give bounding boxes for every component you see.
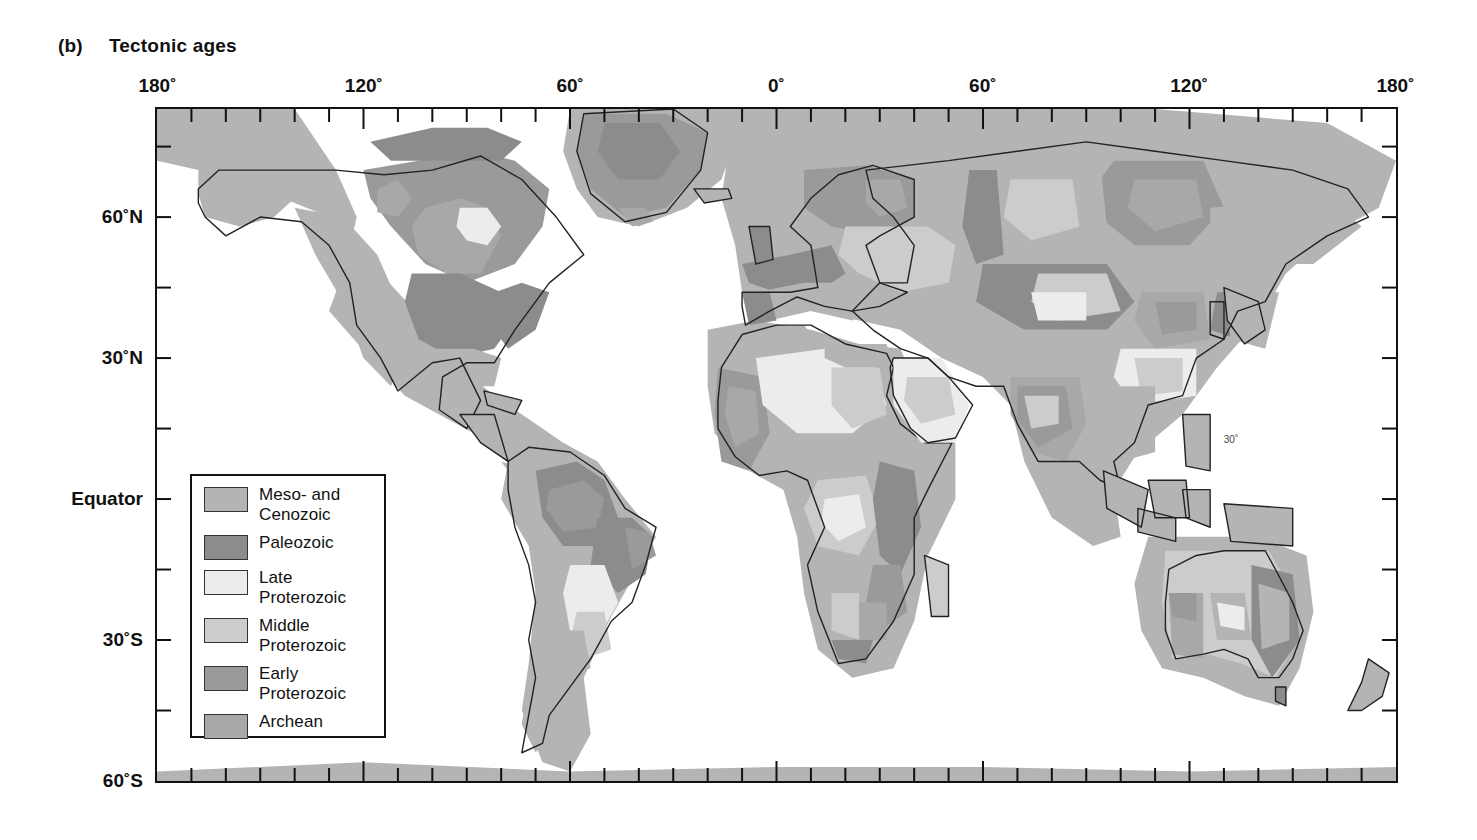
panel-letter: (b) [58, 35, 83, 56]
legend-item[interactable]: Early Proterozoic [204, 664, 376, 704]
map-region [1031, 292, 1086, 320]
lat-tick-label-0: 60˚N [102, 206, 143, 228]
legend-label-3: Middle Proterozoic [259, 616, 346, 656]
lon-tick-label-3: 0˚ [768, 75, 785, 97]
legend-item[interactable]: Paleozoic [204, 533, 376, 560]
lon-tick-label-6: 180˚ [1376, 75, 1414, 97]
map-region [1155, 302, 1196, 335]
map-region [198, 165, 294, 226]
map-region [370, 128, 521, 161]
lat-tick-label-3: 30˚S [103, 629, 143, 651]
legend-item[interactable]: Late Proterozoic [204, 568, 376, 608]
legend-swatch-0 [204, 487, 248, 512]
map-region [1348, 659, 1389, 711]
legend-swatch-2 [204, 570, 248, 595]
legend-label-4: Early Proterozoic [259, 664, 346, 704]
legend-swatch-1 [204, 535, 248, 560]
legend-swatch-3 [204, 618, 248, 643]
legend-label-1: Paleozoic [259, 533, 334, 553]
legend-swatch-4 [204, 666, 248, 691]
map-region [1224, 504, 1293, 546]
lon-tick-label-1: 120˚ [345, 75, 383, 97]
lat-tick-label-2: Equator [71, 488, 143, 510]
lon-tick-label-5: 120˚ [1170, 75, 1208, 97]
lon-tick-label-4: 60˚ [969, 75, 996, 97]
map-region [1183, 414, 1211, 470]
map-region [1258, 584, 1289, 650]
lon-tick-label-0: 180˚ [138, 75, 176, 97]
lat-tick-label-4: 60˚S [103, 770, 143, 792]
figure-panel: (b)Tectonic ages 180˚120˚60˚0˚60˚120˚180… [0, 0, 1477, 840]
legend-label-0: Meso- and Cenozoic [259, 485, 340, 525]
legend-item[interactable]: Meso- and Cenozoic [204, 485, 376, 525]
figure-caption: (b)Tectonic ages [58, 35, 237, 57]
legend-swatch-5 [204, 714, 248, 739]
lon-tick-label-2: 60˚ [556, 75, 583, 97]
map-annotation-30deg: 30˚ [1224, 434, 1238, 445]
lat-tick-label-1: 30˚N [102, 347, 143, 369]
legend-item[interactable]: Archean [204, 712, 376, 739]
map-legend[interactable]: Meso- and CenozoicPaleozoicLate Proteroz… [190, 474, 386, 738]
map-region [295, 208, 405, 387]
legend-item[interactable]: Middle Proterozoic [204, 616, 376, 656]
panel-title: Tectonic ages [109, 35, 237, 56]
legend-label-2: Late Proterozoic [259, 568, 346, 608]
legend-label-5: Archean [259, 712, 323, 732]
